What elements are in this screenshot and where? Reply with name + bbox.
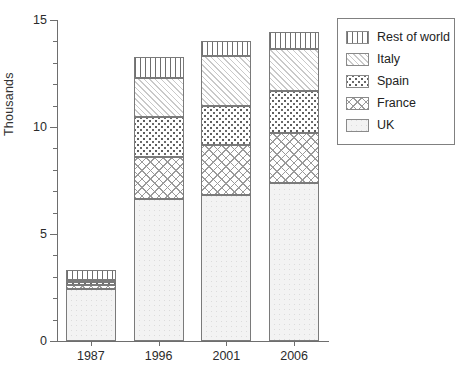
legend-swatch-icon xyxy=(346,119,369,132)
bar-group[interactable] xyxy=(134,20,184,341)
y-axis-title: Thousands xyxy=(2,6,18,136)
y-tick-minor xyxy=(53,84,57,85)
legend-swatch-icon xyxy=(346,31,369,44)
y-tick-label: 0 xyxy=(40,334,47,348)
bar-segment-spain[interactable] xyxy=(66,282,116,285)
y-tick-minor xyxy=(53,63,57,64)
y-tick-minor xyxy=(53,170,57,171)
bar-segment-uk[interactable] xyxy=(269,183,319,341)
plot-area: 051015 1987199620012006 xyxy=(57,20,328,341)
bar-segment-france[interactable] xyxy=(201,145,251,195)
bar-segment-france[interactable] xyxy=(66,285,116,288)
bar-group[interactable] xyxy=(269,20,319,341)
y-tick-minor xyxy=(53,191,57,192)
x-axis-line xyxy=(57,341,329,342)
bar-segment-rest-of-world[interactable] xyxy=(201,41,251,56)
bar-segment-uk[interactable] xyxy=(134,199,184,341)
x-tick-label: 1987 xyxy=(77,349,105,363)
y-tick-minor xyxy=(53,298,57,299)
y-tick-minor xyxy=(53,213,57,214)
y-tick-major xyxy=(50,341,57,342)
y-tick-major xyxy=(50,127,57,128)
x-tick xyxy=(91,341,92,346)
bar-group[interactable] xyxy=(201,20,251,341)
bar-segment-uk[interactable] xyxy=(201,195,251,341)
bar-segment-italy[interactable] xyxy=(66,280,116,282)
legend-label: Spain xyxy=(377,75,409,88)
bar-segment-italy[interactable] xyxy=(201,56,251,105)
y-tick-label: 15 xyxy=(33,13,47,27)
y-axis-line xyxy=(57,20,58,342)
x-tick xyxy=(226,341,227,346)
x-tick-label: 2001 xyxy=(212,349,240,363)
bar-segment-rest-of-world[interactable] xyxy=(66,270,116,280)
bar-segment-france[interactable] xyxy=(269,133,319,182)
y-tick-minor xyxy=(53,106,57,107)
legend-label: UK xyxy=(377,119,394,132)
legend-label: Italy xyxy=(377,53,400,66)
x-tick-label: 2006 xyxy=(280,349,308,363)
y-tick-major xyxy=(50,234,57,235)
legend-item-spain[interactable]: Spain xyxy=(346,71,447,91)
legend-item-uk[interactable]: UK xyxy=(346,115,447,135)
y-tick-minor xyxy=(53,41,57,42)
x-tick xyxy=(294,341,295,346)
legend-label: Rest of world xyxy=(377,31,450,44)
bar-segment-rest-of-world[interactable] xyxy=(134,57,184,77)
stacked-bar-chart: Thousands 051015 1987199620012006 Rest o… xyxy=(0,0,461,376)
bar-segment-italy[interactable] xyxy=(269,49,319,91)
bar-segment-uk[interactable] xyxy=(66,289,116,341)
y-tick-label: 5 xyxy=(40,227,47,241)
bar-group[interactable] xyxy=(66,20,116,341)
y-tick-label: 10 xyxy=(33,120,47,134)
y-tick-minor xyxy=(53,255,57,256)
bar-segment-italy[interactable] xyxy=(134,78,184,118)
legend-swatch-icon xyxy=(346,53,369,66)
bar-segment-spain[interactable] xyxy=(134,117,184,157)
y-tick-minor xyxy=(53,320,57,321)
legend-item-rest-of-world[interactable]: Rest of world xyxy=(346,27,447,47)
y-tick-minor xyxy=(53,277,57,278)
bar-segment-rest-of-world[interactable] xyxy=(269,32,319,49)
legend-swatch-icon xyxy=(346,75,369,88)
bar-segment-spain[interactable] xyxy=(269,91,319,134)
legend-swatch-icon xyxy=(346,97,369,110)
y-tick-minor xyxy=(53,148,57,149)
bar-segment-france[interactable] xyxy=(134,157,184,199)
bar-segment-spain[interactable] xyxy=(201,106,251,146)
legend-item-italy[interactable]: Italy xyxy=(346,49,447,69)
legend-label: France xyxy=(377,97,416,110)
x-tick-label: 1996 xyxy=(145,349,173,363)
legend: Rest of worldItalySpainFranceUK xyxy=(337,18,455,145)
x-tick xyxy=(159,341,160,346)
y-tick-major xyxy=(50,20,57,21)
legend-item-france[interactable]: France xyxy=(346,93,447,113)
